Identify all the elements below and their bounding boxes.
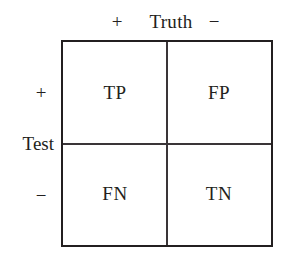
confusion-matrix-figure: + Truth − + Test − TP FP FN TN — [0, 0, 286, 264]
horizontal-divider — [63, 143, 271, 145]
truth-negative-symbol: − — [203, 8, 225, 36]
cell-true-negative: TN — [167, 144, 271, 246]
truth-positive-symbol: + — [106, 8, 128, 36]
cell-false-negative: FN — [63, 144, 167, 246]
matrix-box: TP FP FN TN — [61, 40, 273, 247]
test-positive-symbol: + — [28, 80, 54, 106]
test-negative-symbol: − — [28, 183, 54, 209]
test-axis-label: Test — [4, 131, 54, 157]
truth-axis-label: Truth — [136, 8, 206, 36]
truth-axis-header: + Truth − — [61, 8, 273, 36]
cell-false-positive: FP — [167, 42, 271, 144]
cell-true-positive: TP — [63, 42, 167, 144]
